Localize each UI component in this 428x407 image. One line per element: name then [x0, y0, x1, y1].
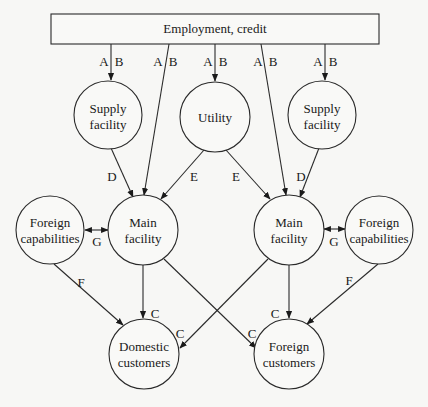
- edge-label-f: F: [345, 273, 352, 288]
- edge-label-c: C: [151, 306, 160, 321]
- edge-label-e: E: [190, 169, 198, 184]
- edge-label-b: B: [169, 54, 178, 69]
- svg-text:facility: facility: [304, 117, 341, 132]
- svg-text:Supply: Supply: [304, 101, 341, 116]
- svg-text:Foreign: Foreign: [30, 215, 71, 230]
- network-diagram: Employment, credit A B A B A B A B A B D…: [0, 0, 428, 407]
- edges-de: D E E D: [107, 148, 319, 199]
- edge-label-c: C: [248, 326, 257, 341]
- svg-text:capabilities: capabilities: [349, 231, 408, 246]
- svg-text:facility: facility: [90, 117, 127, 132]
- svg-text:customers: customers: [118, 355, 171, 370]
- edge-foreign-cap-left-to-domestic: [54, 264, 123, 325]
- edge-label-a: A: [313, 54, 323, 69]
- svg-text:Main: Main: [129, 215, 157, 230]
- svg-text:customers: customers: [263, 355, 316, 370]
- node-supply-facility-left: Supply facility: [74, 81, 142, 149]
- edge-label-c: C: [271, 306, 280, 321]
- edge-label-d: D: [107, 169, 116, 184]
- svg-text:Domestic: Domestic: [119, 339, 169, 354]
- node-foreign-customers: Foreign customers: [254, 319, 324, 389]
- edge-foreign-cap-right-to-foreign-customers: [307, 264, 378, 324]
- svg-text:Utility: Utility: [198, 110, 232, 125]
- edge-label-a: A: [253, 54, 263, 69]
- node-domestic-customers: Domestic customers: [109, 319, 179, 389]
- node-foreign-capabilities-left: Foreign capabilities: [16, 196, 84, 264]
- node-supply-facility-right: Supply facility: [288, 81, 356, 149]
- svg-text:capabilities: capabilities: [20, 231, 79, 246]
- svg-text:facility: facility: [125, 231, 162, 246]
- edge-label-g: G: [329, 234, 338, 249]
- node-main-facility-left: Main facility: [108, 195, 178, 265]
- edge-label-f: F: [77, 275, 84, 290]
- edge-label-c: C: [176, 326, 185, 341]
- edge-label-a: A: [99, 54, 109, 69]
- svg-text:Foreign: Foreign: [359, 215, 400, 230]
- svg-text:Foreign: Foreign: [269, 339, 310, 354]
- edge-label-b: B: [269, 54, 278, 69]
- svg-text:facility: facility: [271, 231, 308, 246]
- employment-credit-label: Employment, credit: [163, 21, 267, 36]
- edge-label-e: E: [232, 169, 240, 184]
- employment-credit-box: Employment, credit: [51, 14, 379, 44]
- edge-label-a: A: [153, 54, 163, 69]
- svg-text:Main: Main: [275, 215, 303, 230]
- edge-label-b: B: [115, 54, 124, 69]
- node-utility: Utility: [180, 82, 250, 152]
- svg-text:Supply: Supply: [90, 101, 127, 116]
- edge-label-a: A: [203, 54, 213, 69]
- node-foreign-capabilities-right: Foreign capabilities: [345, 196, 413, 264]
- edge-label-b: B: [219, 54, 228, 69]
- edge-label-g: G: [92, 234, 101, 249]
- edge-label-b: B: [329, 54, 338, 69]
- node-main-facility-right: Main facility: [254, 195, 324, 265]
- edges-fc: F C C C C F: [54, 259, 378, 348]
- edge-label-d: D: [296, 169, 305, 184]
